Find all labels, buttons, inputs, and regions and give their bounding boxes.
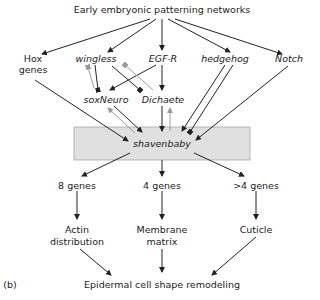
diagram-connections bbox=[0, 0, 320, 300]
actin-label-line1: Actin bbox=[65, 224, 89, 235]
membrane-label-line2: matrix bbox=[147, 236, 178, 247]
bottom-label: Epidermal cell shape remodeling bbox=[84, 279, 240, 290]
panel-label: (b) bbox=[3, 279, 16, 290]
egfr-label: EGF-R bbox=[149, 53, 177, 64]
cuticle-label: Cuticle bbox=[240, 224, 273, 235]
gene-set-middle: 4 genes bbox=[143, 180, 181, 191]
gene-set-right: >4 genes bbox=[233, 180, 279, 191]
hox-label-line2: genes bbox=[19, 64, 48, 75]
gene-set-left: 8 genes bbox=[58, 180, 96, 191]
dichaete-label: Dichaete bbox=[142, 94, 184, 105]
top-label: Early embryonic patterning networks bbox=[74, 4, 251, 15]
membrane-label-line1: Membrane bbox=[137, 224, 188, 235]
soxneuro-label: soxNeuro bbox=[83, 94, 128, 105]
hox-label-line1: Hox bbox=[24, 53, 42, 64]
notch-label: Notch bbox=[275, 53, 303, 64]
shavenbaby-label: shavenbaby bbox=[133, 138, 191, 149]
wingless-label: wingless bbox=[76, 53, 117, 64]
hedgehog-label: hedgehog bbox=[201, 53, 249, 64]
actin-label-line2: distribution bbox=[50, 236, 104, 247]
